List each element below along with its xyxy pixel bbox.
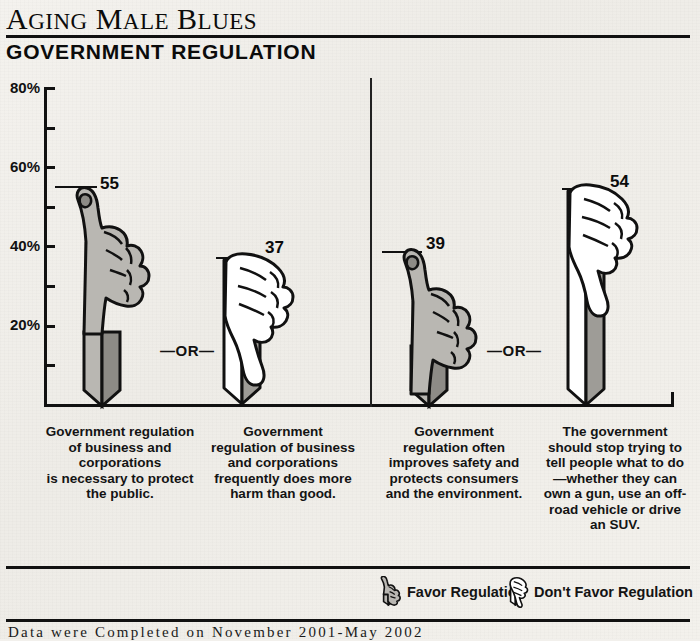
title-word-3: BLUES xyxy=(177,2,257,35)
y-tick-20 xyxy=(44,325,55,328)
bar-4-thumbs-down-icon xyxy=(558,183,673,413)
caption-line: protects consumers xyxy=(374,471,534,487)
masthead: AGING MALE BLUES xyxy=(6,2,694,39)
bar-4-caption: The government should stop trying to tel… xyxy=(536,424,694,533)
y-tick-40 xyxy=(44,245,55,248)
y-tick-10 xyxy=(44,364,55,367)
bar-2-caption: Government regulation of business and co… xyxy=(203,424,363,502)
bar-3-caption: Government regulation often improves saf… xyxy=(374,424,534,502)
y-tick-70 xyxy=(44,127,55,130)
caption-line: the public. xyxy=(40,486,200,502)
y-axis-label-40: 40% xyxy=(0,237,40,254)
legend-label-oppose: Don't Favor Regulation xyxy=(534,584,693,600)
y-axis-label-20: 20% xyxy=(0,316,40,333)
chart-panel: 80% 60% 40% 20% —OR— —OR— 55 xyxy=(0,70,700,415)
caption-line: road vehicle or drive xyxy=(536,502,694,518)
legend-item-favor: Favor Regulation xyxy=(378,576,525,608)
caption-line: tell people what to do xyxy=(536,455,694,471)
captions-row: Government regulation of business and co… xyxy=(0,424,700,539)
source-note: Data were Completed on November 2001-May… xyxy=(8,624,424,641)
legend-item-oppose: Don't Favor Regulation xyxy=(505,576,693,608)
or-separator-right: —OR— xyxy=(487,342,542,359)
caption-line: of business and xyxy=(40,440,200,456)
title-word-2: MALE xyxy=(96,2,169,35)
bar-1-caption: Government regulation of business and co… xyxy=(40,424,200,502)
caption-line: —whether they can xyxy=(536,471,694,487)
caption-line: should stop trying to xyxy=(536,440,694,456)
caption-line: an SUV. xyxy=(536,517,694,533)
thumbs-up-icon xyxy=(378,576,402,608)
caption-line: Government xyxy=(203,424,363,440)
bar-2-thumbs-down-icon xyxy=(214,252,324,412)
rule-middle xyxy=(6,566,690,569)
caption-line: and the environment. xyxy=(374,486,534,502)
caption-line: Government regulation xyxy=(40,424,200,440)
caption-line: regulation of business xyxy=(203,440,363,456)
y-axis-top-cap xyxy=(44,87,55,90)
caption-line: frequently does more xyxy=(203,471,363,487)
caption-line: Government xyxy=(374,424,534,440)
caption-line: corporations xyxy=(40,455,200,471)
or-separator-left: —OR— xyxy=(160,342,215,359)
rule-top xyxy=(6,35,690,38)
y-tick-30 xyxy=(44,285,55,288)
caption-line: and corporations xyxy=(203,455,363,471)
y-tick-50 xyxy=(44,206,55,209)
y-axis-label-60: 60% xyxy=(0,158,40,175)
thumbs-down-icon xyxy=(505,576,529,608)
section-subtitle: GOVERNMENT REGULATION xyxy=(6,40,316,64)
y-axis-label-80: 80% xyxy=(0,79,40,96)
caption-line: The government xyxy=(536,424,694,440)
rule-bottom xyxy=(6,619,690,622)
bar-3-thumbs-up-icon xyxy=(383,246,493,416)
caption-line: regulation often xyxy=(374,440,534,456)
page-title: AGING MALE BLUES xyxy=(6,2,694,39)
title-word-1: AGING xyxy=(6,2,88,35)
legend: Favor Regulation Don't Favor Regulation xyxy=(0,572,700,612)
caption-line: improves safety and xyxy=(374,455,534,471)
caption-line: is necessary to protect xyxy=(40,471,200,487)
bar-1-thumbs-up-icon xyxy=(56,182,166,410)
caption-line: harm than good. xyxy=(203,486,363,502)
panel-divider xyxy=(370,78,372,407)
y-tick-60 xyxy=(44,166,55,169)
caption-line: own a gun, use an off- xyxy=(536,486,694,502)
